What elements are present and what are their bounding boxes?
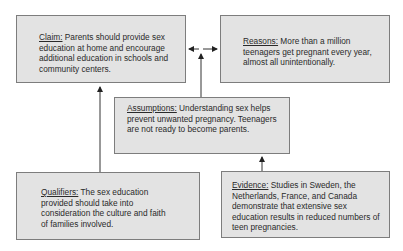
assumptions-label: Assumptions: — [127, 103, 177, 113]
evidence-label: Evidence: — [232, 180, 268, 190]
reasons-label: Reasons: — [243, 36, 278, 46]
claim-box: Claim: Parents should provide sex educat… — [16, 15, 186, 83]
qualifiers-box: Qualifiers: The sex education provided s… — [16, 172, 200, 240]
evidence-box: Evidence: Studies in Sweden, the Netherl… — [221, 171, 390, 238]
reasons-box: Reasons: More than a million teenagers g… — [220, 15, 390, 83]
qualifiers-label: Qualifiers: — [41, 187, 78, 197]
assumptions-box: Assumptions: Understanding sex helps pre… — [114, 97, 290, 154]
claim-label: Claim: — [39, 32, 63, 42]
